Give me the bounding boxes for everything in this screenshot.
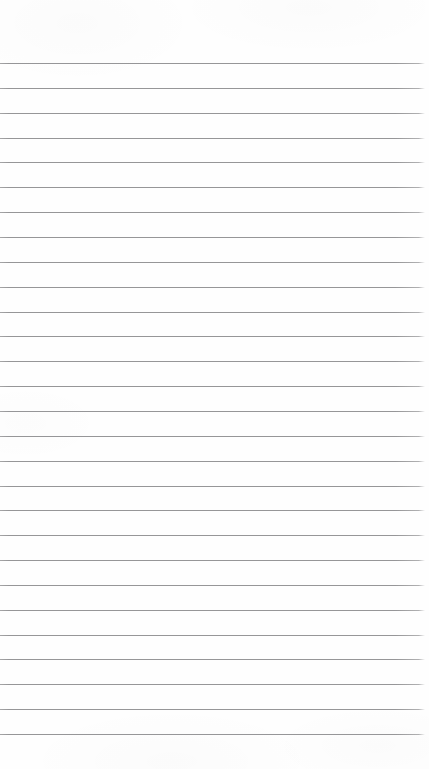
rule-lines-group	[0, 0, 429, 769]
rule-line	[0, 237, 425, 238]
rule-line	[0, 113, 425, 114]
rule-line	[0, 510, 425, 511]
rule-line	[0, 63, 425, 64]
lined-paper-page	[0, 0, 429, 769]
rule-line	[0, 386, 425, 387]
rule-line	[0, 635, 425, 636]
rule-line	[0, 436, 425, 437]
rule-line	[0, 262, 425, 263]
rule-line	[0, 287, 425, 288]
rule-line	[0, 88, 425, 89]
rule-line	[0, 535, 425, 536]
rule-line	[0, 585, 425, 586]
rule-line	[0, 610, 425, 611]
rule-line	[0, 187, 425, 188]
rule-line	[0, 560, 425, 561]
rule-line	[0, 162, 425, 163]
rule-line	[0, 411, 425, 412]
rule-line	[0, 659, 425, 660]
rule-line	[0, 312, 425, 313]
rule-line	[0, 684, 425, 685]
rule-line	[0, 336, 425, 337]
rule-line	[0, 138, 425, 139]
rule-line	[0, 361, 425, 362]
rule-line	[0, 709, 425, 710]
bottom-margin-area	[0, 734, 429, 769]
rule-line	[0, 486, 425, 487]
rule-line	[0, 212, 425, 213]
rule-line	[0, 461, 425, 462]
